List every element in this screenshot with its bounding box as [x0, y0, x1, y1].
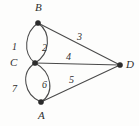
vertex-label-a: A [38, 110, 45, 121]
edge-label-1: 1 [12, 42, 17, 52]
vertex-c [32, 60, 37, 65]
edge-label-4: 4 [66, 52, 71, 62]
graph-canvas [0, 0, 139, 126]
vertex-a [38, 99, 43, 104]
edge-5-a-d [41, 65, 120, 102]
graph-diagram: B C A D 1 2 3 4 5 6 7 [0, 0, 139, 126]
edge-1-b-c [27, 23, 38, 63]
vertex-label-b: B [35, 2, 42, 13]
edge-label-7: 7 [12, 84, 17, 94]
edge-label-5: 5 [69, 75, 74, 85]
edge-4-c-d [35, 63, 120, 65]
edge-3-b-d [38, 23, 120, 65]
edge-label-6: 6 [42, 80, 47, 90]
edge-7-c-a [26, 63, 41, 102]
vertex-label-c: C [10, 57, 17, 68]
vertex-b [35, 20, 40, 25]
vertex-label-d: D [126, 59, 134, 70]
edge-label-3: 3 [77, 32, 82, 42]
vertex-d [117, 62, 122, 67]
edge-label-2: 2 [42, 43, 47, 53]
